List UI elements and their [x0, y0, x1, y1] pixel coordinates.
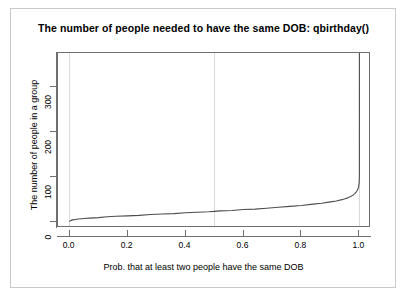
x-tick-mark	[243, 230, 244, 236]
y-tick-label: 200	[43, 130, 53, 164]
x-tick-label: 0.8	[285, 240, 315, 250]
x-tick-label: 0.6	[228, 240, 258, 250]
y-tick-label: 0	[43, 220, 53, 254]
gridlines-group	[70, 53, 360, 227]
figure-container: The number of people needed to have the …	[0, 0, 407, 300]
x-tick-mark	[127, 230, 128, 236]
y-tick-label: 300	[43, 85, 53, 119]
plot-svg	[58, 53, 370, 227]
y-axis-title: The number of people in a group	[29, 65, 39, 225]
x-tick-mark	[69, 230, 70, 236]
x-tick-mark	[185, 230, 186, 236]
x-tick-mark	[300, 230, 301, 236]
chart-title: The number of people needed to have the …	[0, 22, 407, 34]
plot-panel	[57, 52, 370, 227]
x-tick-mark	[358, 230, 359, 236]
y-axis-line	[56, 52, 57, 228]
y-tick-label: 100	[43, 175, 53, 209]
x-tick-label: 0.0	[54, 240, 84, 250]
x-tick-label: 0.2	[112, 240, 142, 250]
x-tick-label: 1.0	[343, 240, 373, 250]
x-axis-title: Prob. that at least two people have the …	[0, 262, 407, 272]
x-axis-line	[57, 236, 371, 237]
x-tick-label: 0.4	[170, 240, 200, 250]
